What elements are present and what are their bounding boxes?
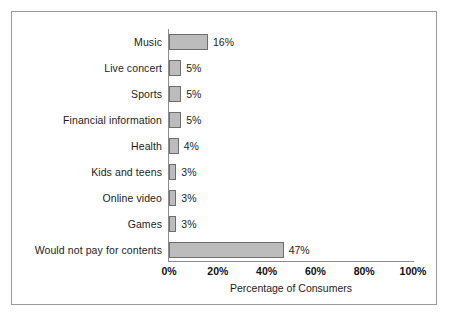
bar-category-label: Health	[131, 140, 162, 152]
bar	[169, 190, 176, 206]
bar-wrapper: 3%	[169, 190, 197, 206]
bar-row: Online video3%	[12, 185, 436, 211]
bar-wrapper: 5%	[169, 60, 201, 76]
bar	[169, 60, 181, 76]
bar	[169, 34, 208, 50]
x-axis-tick-label: 40%	[256, 265, 277, 277]
bar-row: Live concert5%	[12, 55, 436, 81]
bar-category-label: Music	[134, 36, 162, 48]
bar-row: Health4%	[12, 133, 436, 159]
bar-value-label: 5%	[186, 62, 201, 74]
bar-value-label: 3%	[181, 192, 196, 204]
bar-row: Games3%	[12, 211, 436, 237]
bar-wrapper: 5%	[169, 112, 201, 128]
bar-value-label: 5%	[186, 88, 201, 100]
bar-row: Would not pay for contents47%	[12, 237, 436, 263]
bar	[169, 112, 181, 128]
bar-wrapper: 5%	[169, 86, 201, 102]
bar-value-label: 47%	[289, 244, 310, 256]
x-axis-title: Percentage of Consumers	[169, 282, 413, 294]
x-axis-tick-label: 20%	[207, 265, 228, 277]
chart-figure-frame: Music16%Live concert5%Sports5%Financial …	[11, 11, 437, 305]
bar-wrapper: 3%	[169, 164, 197, 180]
bar-category-label: Games	[128, 218, 162, 230]
bar-category-label: Kids and teens	[91, 166, 162, 178]
bar-value-label: 5%	[186, 114, 201, 126]
bar-wrapper: 4%	[169, 138, 199, 154]
bar-row: Kids and teens3%	[12, 159, 436, 185]
bar	[169, 138, 179, 154]
bar-value-label: 3%	[181, 166, 196, 178]
bar	[169, 86, 181, 102]
bar-value-label: 16%	[213, 36, 234, 48]
bar	[169, 164, 176, 180]
bar-wrapper: 3%	[169, 216, 197, 232]
x-axis-tick-label: 60%	[305, 265, 326, 277]
bar-category-label: Financial information	[63, 114, 162, 126]
bar-category-label: Online video	[102, 192, 162, 204]
bar-row: Financial information5%	[12, 107, 436, 133]
x-axis-tick-label: 100%	[400, 265, 427, 277]
bar-category-label: Sports	[131, 88, 162, 100]
bar-wrapper: 47%	[169, 242, 310, 258]
bar-wrapper: 16%	[169, 34, 234, 50]
x-axis-tick-label: 0%	[161, 265, 176, 277]
bar-value-label: 4%	[184, 140, 199, 152]
bar-row: Sports5%	[12, 81, 436, 107]
x-axis-tick-label: 80%	[354, 265, 375, 277]
bar-category-label: Live concert	[104, 62, 162, 74]
bar-row: Music16%	[12, 29, 436, 55]
bar-value-label: 3%	[181, 218, 196, 230]
bar	[169, 216, 176, 232]
bar	[169, 242, 284, 258]
bar-category-label: Would not pay for contents	[35, 244, 162, 256]
